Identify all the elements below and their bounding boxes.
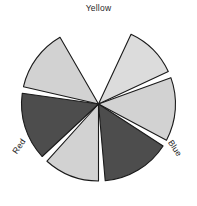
color-wheel-diagram [0,0,197,206]
sector-upper-left [23,37,98,104]
color-wheel-figure: Yellow Red Blue [0,0,197,206]
sector-group [22,34,176,181]
label-yellow: Yellow [0,4,197,13]
